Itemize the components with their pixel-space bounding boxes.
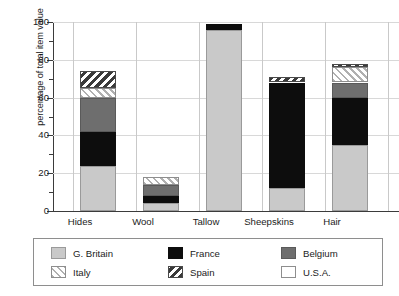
segment-hides-italy [80,88,116,97]
segment-wool-belgium [143,185,179,196]
segment-tallow-gbritain [206,30,242,211]
segment-hides-spain [80,71,116,88]
legend-item-belgium: Belgium [281,246,338,260]
legend-label-g-britain: G. Britain [73,248,113,259]
y-axis-line [53,22,54,212]
tick-label-0: 0 [9,206,49,216]
category-label-hair: Hair [287,216,377,227]
tick-minor-10 [49,192,53,193]
legend-label-belgium: Belgium [303,248,338,259]
segment-hair-gbritain [332,145,368,211]
tick-minor-70 [49,79,53,80]
tick-minor-90 [49,41,53,42]
segment-wool-gbritain [143,203,179,211]
plot-area: 100 80 60 40 20 0 Hides Wool Tallow [53,22,399,211]
legend-swatch-belgium-icon [281,247,296,259]
segment-hides-france [80,132,116,166]
legend-item-france: France [168,246,220,260]
legend-swatch-g-britain-icon [51,247,66,259]
tick-minor-30 [49,154,53,155]
segment-sheepskins-france [269,83,305,189]
segment-wool-italy [143,177,179,185]
legend-swatch-spain-icon [168,266,183,278]
segment-sheepskins-gbritain [269,188,305,211]
bar-tallow [206,24,242,211]
segment-hides-gbritain [80,166,116,211]
legend-label-italy: Italy [73,267,91,278]
gridline-100 [53,22,399,23]
category-separator-5 [325,22,326,211]
category-separator-3 [199,22,200,211]
tick-label-60: 60 [9,93,49,103]
chart-legend: G. Britain France Belgium Italy Spain U.… [33,238,383,286]
segment-hair-belgium [332,83,368,98]
legend-item-g-britain: G. Britain [51,246,113,260]
legend-label-france: France [190,248,220,259]
bar-wool [143,177,179,211]
tick-label-100: 100 [9,17,49,27]
stacked-bar-chart: percentage of total item value 100 80 60… [0,0,399,296]
bar-hides [80,71,116,211]
legend-item-italy: Italy [51,265,91,279]
bar-hair [332,64,368,211]
tick-label-40: 40 [9,130,49,140]
x-axis-line [53,211,399,212]
segment-wool-france [143,196,179,204]
category-separator-2 [136,22,137,211]
legend-label-usa: U.S.A. [303,267,331,278]
tick-minor-50 [49,117,53,118]
category-separator-1 [73,22,74,211]
legend-swatch-france-icon [168,247,183,259]
bar-sheepskins [269,77,305,211]
legend-swatch-italy-icon [51,266,66,278]
segment-sheepskins-spain [269,77,305,83]
category-separator-4 [262,22,263,211]
legend-item-spain: Spain [168,265,215,279]
tick-label-20: 20 [9,168,49,178]
legend-swatch-usa-icon [281,266,296,278]
tick-label-80: 80 [9,55,49,65]
segment-hair-france [332,98,368,145]
legend-label-spain: Spain [190,267,215,278]
legend-item-usa: U.S.A. [281,265,331,279]
segment-hides-belgium [80,98,116,132]
segment-hair-italy [332,67,368,82]
segment-hair-spain [332,64,368,68]
category-separator-6 [388,22,389,211]
segment-tallow-france [206,24,242,30]
